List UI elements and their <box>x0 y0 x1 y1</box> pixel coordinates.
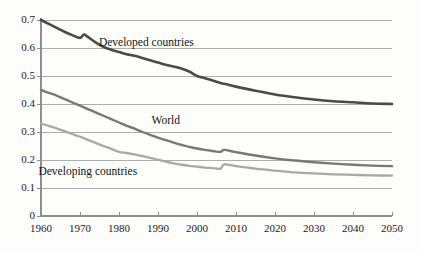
y-tick-label-0p6: 0.6 <box>2 41 35 53</box>
x-tick-label-2020: 2020 <box>255 222 295 234</box>
x-tick-label-2030: 2030 <box>294 222 334 234</box>
y-tick-label-0: 0 <box>2 209 35 221</box>
x-tick-label-1980: 1980 <box>99 222 139 234</box>
y-tick-label-0p1: 0.1 <box>2 181 35 193</box>
x-tick-label-2040: 2040 <box>333 222 373 234</box>
y-tick-label-0p4: 0.4 <box>2 97 35 109</box>
series-annotation-developed-countries: Developed countries <box>99 36 194 48</box>
chart-plot-area <box>0 0 421 253</box>
x-tick-label-2010: 2010 <box>216 222 256 234</box>
x-tick-label-1960: 1960 <box>21 222 61 234</box>
series-annotation-world: World <box>152 114 180 126</box>
x-tick-label-2000: 2000 <box>177 222 217 234</box>
x-tick-label-1970: 1970 <box>60 222 100 234</box>
y-tick-label-0p5: 0.5 <box>2 69 35 81</box>
series-line-developed-countries <box>41 20 392 104</box>
y-tick-label-0p3: 0.3 <box>2 125 35 137</box>
series-annotation-developing-countries: Developing countries <box>38 165 137 177</box>
x-tick-label-2050: 2050 <box>372 222 412 234</box>
line-chart: 00.10.20.30.40.50.60.7 19601970198019902… <box>0 0 421 253</box>
y-tick-label-0p2: 0.2 <box>2 153 35 165</box>
x-tick-label-1990: 1990 <box>138 222 178 234</box>
y-tick-label-0p7: 0.7 <box>2 13 35 25</box>
